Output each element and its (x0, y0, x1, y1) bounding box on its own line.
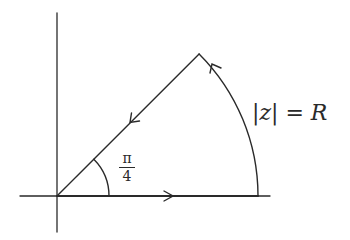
fraction-numerator: π (119, 151, 135, 168)
angle-fraction-label: π 4 (119, 151, 135, 184)
fraction-denominator: 4 (119, 168, 135, 184)
angle-arc (94, 159, 109, 196)
contour-circular-arc (199, 54, 258, 196)
radius-symbol: R (311, 100, 328, 125)
modulus-equation-label: |z| = R (252, 100, 327, 126)
equals-sign: = (278, 100, 310, 125)
variable-z: z (259, 100, 271, 125)
